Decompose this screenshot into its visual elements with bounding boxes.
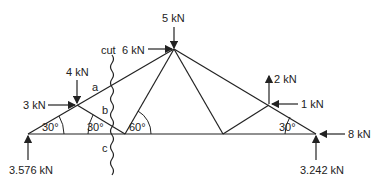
member-label-c: c [102, 142, 108, 154]
web-center-right [174, 49, 223, 134]
load-label-1kn: 1 kN [301, 98, 324, 110]
truss-members [28, 49, 316, 134]
angle-right-support: 30° [279, 121, 296, 133]
load-arrows [28, 27, 345, 160]
reaction-label-right: 3.242 kN [300, 164, 344, 176]
web-right-diagonal [223, 105, 269, 134]
load-label-4kn: 4 kN [66, 66, 89, 78]
truss-diagram: 30° 30° 60° 30° cut a b c 5 kN 6 kN 4 kN… [0, 0, 389, 184]
angle-bottom-mid-node: 60° [129, 121, 146, 133]
load-label-2kn: 2 kN [274, 73, 297, 85]
load-label-3kn: 3 kN [23, 99, 46, 111]
cut-label: cut [101, 44, 116, 56]
load-label-5kn: 5 kN [162, 12, 185, 24]
member-label-a: a [92, 81, 99, 93]
load-label-8kn: 8 kN [348, 128, 371, 140]
angle-bottom-left-node: 30° [87, 121, 104, 133]
load-label-6kn: 6 kN [122, 44, 145, 56]
reaction-label-left: 3.576 kN [9, 164, 53, 176]
angle-left-support: 30° [42, 121, 59, 133]
member-label-b: b [102, 104, 108, 116]
section-cut-line [111, 55, 114, 175]
